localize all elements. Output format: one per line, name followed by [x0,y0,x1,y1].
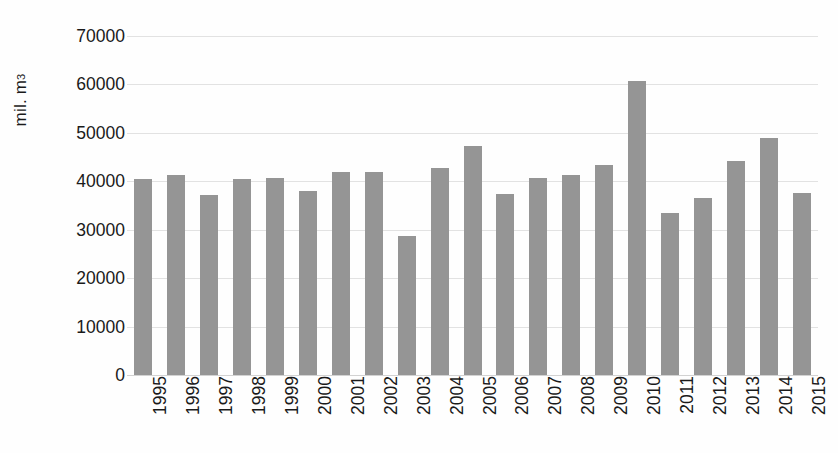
x-tick-label: 2003 [414,376,435,446]
x-tick-label: 2002 [381,376,402,446]
bar [134,179,152,375]
y-axis-tick-labels: 010000200003000040000500006000070000 [0,0,125,453]
x-tick-label: 2006 [512,376,533,446]
x-tick-label: 2004 [447,376,468,446]
bar [365,172,383,375]
y-tick-label: 50000 [33,122,125,143]
x-tick-label: 2007 [545,376,566,446]
y-tick-label: 20000 [33,268,125,289]
x-tick-label: 2008 [578,376,599,446]
bar [529,178,547,375]
bar [760,138,778,375]
x-tick-label: 1995 [150,376,171,446]
bar [694,198,712,375]
x-tick-label: 2001 [348,376,369,446]
x-tick-label: 2011 [677,376,698,446]
x-tick-label: 2005 [480,376,501,446]
bar [661,213,679,375]
y-tick-label: 70000 [33,26,125,47]
x-tick-label: 2013 [743,376,764,446]
x-tick-label: 1996 [183,376,204,446]
y-tick-label: 10000 [33,316,125,337]
bar [628,81,646,375]
x-tick-label: 1998 [249,376,270,446]
bar [299,191,317,375]
x-tick-label: 2012 [710,376,731,446]
bar [233,179,251,375]
x-tick-label: 2014 [776,376,797,446]
bar [266,178,284,375]
bar [496,194,514,375]
bar [431,168,449,375]
bar [332,172,350,375]
bar [167,175,185,375]
bar [727,161,745,375]
y-tick-label: 40000 [33,171,125,192]
y-tick-label: 30000 [33,219,125,240]
bar [595,165,613,375]
bar [464,146,482,375]
x-tick-label: 2000 [315,376,336,446]
y-tick-label: 60000 [33,74,125,95]
bars-layer [127,36,818,375]
bar [562,175,580,375]
y-tick-label: 0 [33,365,125,386]
bar [793,193,811,375]
x-tick-label: 2010 [644,376,665,446]
bar [398,236,416,375]
x-tick-label: 1997 [216,376,237,446]
x-tick-label: 2015 [809,376,830,446]
x-tick-label: 2009 [611,376,632,446]
x-tick-label: 1999 [282,376,303,446]
plot-area [127,36,818,375]
x-axis-tick-labels: 1995199619971998199920002001200220032004… [127,378,818,453]
bar-chart: mil. m3 01000020000300004000050000600007… [0,0,838,453]
bar [200,195,218,375]
